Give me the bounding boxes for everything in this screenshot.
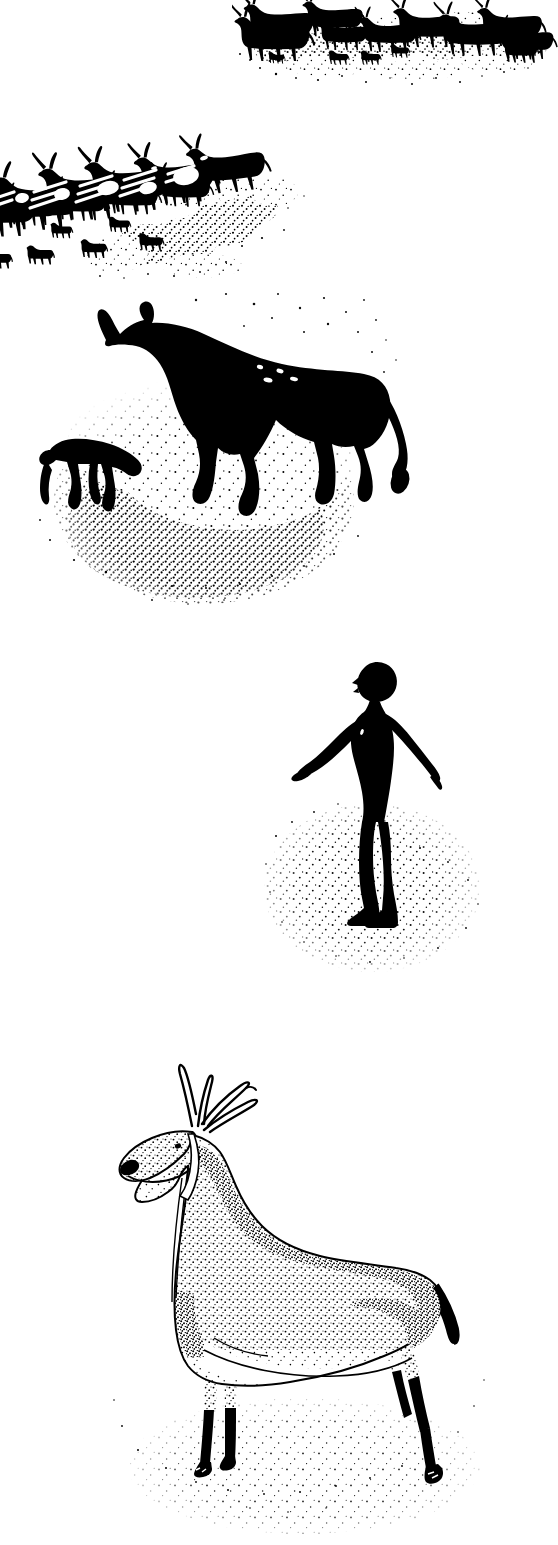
antelope-horns (179, 1065, 257, 1132)
panel-human-figure (252, 636, 514, 976)
panel-cow-and-calf (28, 288, 418, 624)
panel-herd-mid-left (0, 96, 336, 296)
panel-antelope (108, 1050, 492, 1536)
panel-herd-upper-right (232, 0, 558, 96)
